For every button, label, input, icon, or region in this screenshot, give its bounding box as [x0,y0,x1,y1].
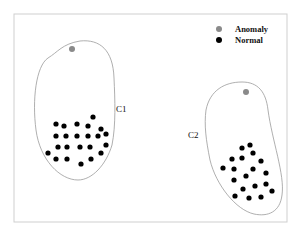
normal-point [239,155,244,160]
normal-point [53,156,58,161]
normal-point [240,186,245,191]
normal-point [53,133,58,138]
normal-point [258,158,263,163]
normal-point [250,166,255,171]
normal-point [78,161,83,166]
normal-point [239,145,244,150]
normal-point [269,188,274,193]
normal-point [247,142,252,147]
anomaly-legend-marker [216,26,222,32]
legend-normal-label: Normal [235,35,263,45]
normal-point [64,156,69,161]
normal-point [263,170,268,175]
legend-anomaly-label: Anomaly [235,24,269,34]
normal-point [252,183,257,188]
normal-point [250,150,255,155]
normal-point [95,133,100,138]
normal-point [85,123,90,128]
diagram-frame [14,14,287,222]
normal-point [64,144,69,149]
normal-point [98,150,103,155]
normal-point [53,121,58,126]
normal-point [85,133,90,138]
anomaly-cluster-diagram: C1 C2 Anomaly Normal [0,0,299,235]
normal-point [232,193,237,198]
normal-point [231,166,236,171]
normal-point [231,177,236,182]
normal-point [263,181,268,186]
cluster-c1-label: C1 [116,104,127,114]
normal-point [98,126,103,131]
normal-point [55,144,60,149]
normal-point [87,144,92,149]
normal-point [88,156,93,161]
normal-point [77,144,82,149]
normal-point [90,114,95,119]
anomaly-point [243,89,249,95]
normal-legend-marker [216,37,222,43]
normal-point [74,121,79,126]
cluster-c2-label: C2 [188,130,199,140]
normal-point [74,133,79,138]
anomaly-point [69,46,75,52]
normal-point [103,142,108,147]
normal-point [258,194,263,199]
normal-point [63,133,68,138]
normal-point [220,165,225,170]
normal-point [61,123,66,128]
normal-point [246,195,251,200]
normal-point [243,173,248,178]
normal-point [103,131,108,136]
normal-point [229,156,234,161]
normal-point [45,150,50,155]
